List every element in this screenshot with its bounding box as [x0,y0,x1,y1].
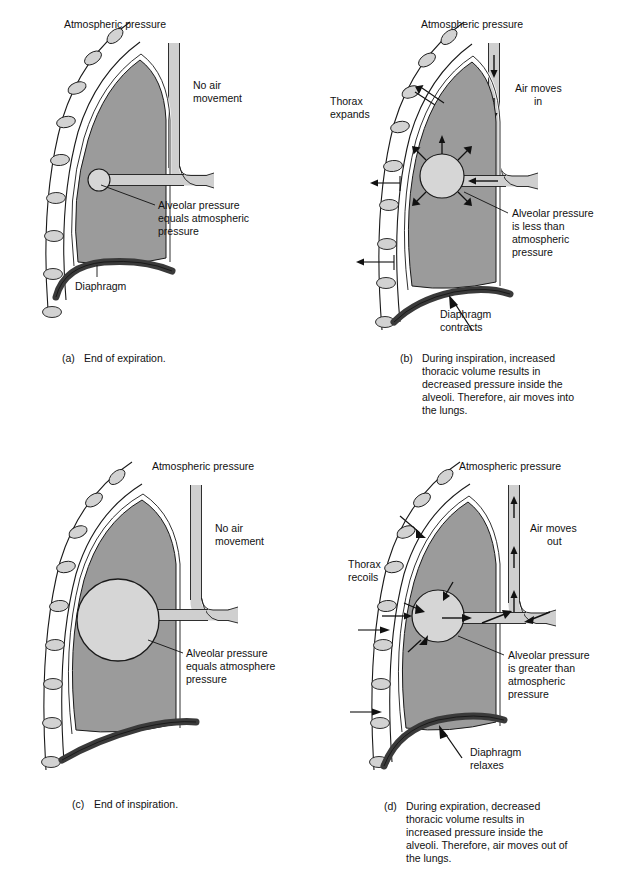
panel-a-caption-letter: (a) [62,352,75,364]
alveolus-b [420,154,464,198]
alveolar-label-d-line4: pressure [508,688,549,700]
alveolar-label-d-line2: is greater than [508,662,575,674]
lung-a [76,60,166,264]
diaphragm-label-a: Diaphragm [75,280,127,292]
respiration-pressure-figure: Atmospheric pressure No air movement Alv… [0,0,643,869]
bronchus-upper-right-c [202,598,231,610]
alveolar-label-b-line1: Alveolar pressure [512,207,594,219]
panel-d-diagram: Atmospheric pressure Air moves out Thora… [322,440,643,869]
air-movement-label-b-line2: in [534,95,542,107]
atmospheric-pressure-label-d: Atmospheric pressure [459,460,561,472]
alveolar-label-b-line4: pressure [512,246,553,258]
panel-b-caption-line4: alveoli. Therefore, air moves into [422,391,574,403]
alveolar-label-b-line2: is less than [512,220,565,232]
air-movement-label-d-line1: Air moves [530,522,577,534]
panel-b-caption-line1: During inspiration, increased [422,352,555,364]
air-movement-label-b-line1: Air moves [515,82,562,94]
panel-b-diagram: Atmospheric pressure Air moves in Thorax… [322,0,643,440]
air-movement-label-c-line1: No air [215,522,244,534]
alveolar-label-c-line3: pressure [186,673,227,685]
alveolar-label-c-line2: equals atmosphere [186,660,275,672]
panel-c-caption-letter: (c) [72,798,84,810]
alveolar-label-a-line3: pressure [158,225,199,237]
panel-a-diagram: Atmospheric pressure No air movement Alv… [0,0,321,400]
panel-a-caption-line1: End of expiration. [84,352,166,364]
thorax-label-b-line1: Thorax [330,95,363,107]
panel-b-caption-letter: (b) [400,352,413,364]
panel-d-caption-line4: alveoli. Therefore, air moves out of [406,839,568,851]
atmospheric-pressure-label-c: Atmospheric pressure [152,460,254,472]
alveolar-label-d-line1: Alveolar pressure [508,649,590,661]
alveolar-label-b-line3: atmospheric [512,233,569,245]
bronchus-upper-right-b [500,164,531,176]
air-movement-label-a-line1: No air [193,79,222,91]
thorax-label-b-line2: expands [330,108,370,120]
alveolar-label-a-line1: Alveolar pressure [158,199,240,211]
trachea-a [174,43,206,180]
alveolus-c [77,579,159,661]
panel-d-caption-line3: increased pressure inside the [406,826,543,838]
panel-b-during-inspiration: Atmospheric pressure Air moves in Thorax… [322,0,643,440]
panel-b-caption-line3: decreased pressure inside the [422,378,563,390]
air-movement-label-c-line2: movement [215,535,264,547]
trachea-d [514,485,546,618]
air-movement-label-d-line2: out [547,535,562,547]
panel-c-end-of-inspiration: Atmospheric pressure No air movement Alv… [0,440,321,840]
panel-a-end-of-expiration: Atmospheric pressure No air movement Alv… [0,0,321,400]
panel-b-caption-line5: the lungs. [422,404,468,416]
panel-b-caption-line2: thoracic volume results in [422,365,541,377]
alveolar-label-a-line2: equals atmospheric [158,212,249,224]
thorax-label-d-line2: recoils [348,571,378,583]
panel-c-caption-line1: End of inspiration. [94,798,178,810]
panel-d-caption-line1: During expiration, decreased [406,800,540,812]
alveolus-a [88,169,110,191]
alveolar-label-c-line1: Alveolar pressure [186,647,268,659]
thorax-label-d-line1: Thorax [348,558,381,570]
diaphragm-label-b-line2: contracts [440,321,483,333]
bronchus-upper-right-d [520,601,549,613]
diaphragm-arrow-d [439,725,462,758]
trachea-c [196,485,228,615]
panel-d-caption-line2: thoracic volume results in [406,813,525,825]
panel-d-during-expiration: Atmospheric pressure Air moves out Thora… [322,440,643,869]
alveolus-d [412,590,464,642]
atmospheric-pressure-label-a: Atmospheric pressure [64,18,166,30]
panel-c-diagram: Atmospheric pressure No air movement Alv… [0,440,321,840]
diaphragm-label-b-line1: Diaphragm [440,308,492,320]
panel-d-caption-line5: the lungs. [406,852,452,864]
alveolar-label-d-line3: atmospheric [508,675,565,687]
diaphragm-label-d-line1: Diaphragm [470,746,522,758]
atmospheric-pressure-label-b: Atmospheric pressure [421,18,523,30]
diaphragm-label-d-line2: relaxes [470,759,504,771]
panel-d-caption-letter: (d) [384,800,397,812]
air-movement-label-a-line2: movement [193,92,242,104]
